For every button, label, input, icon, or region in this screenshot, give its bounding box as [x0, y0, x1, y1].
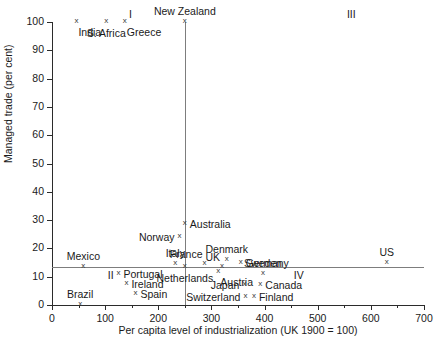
- cross-marker-icon: x: [257, 279, 264, 288]
- data-point-label: France: [170, 248, 203, 260]
- y-tick-label: 100: [26, 15, 44, 28]
- data-point-label: Denmark: [206, 243, 249, 255]
- cross-marker-icon: x: [223, 254, 230, 263]
- cross-marker-icon: x: [242, 291, 249, 300]
- data-point-label: Brazil: [67, 288, 93, 300]
- x-tick-minor: [132, 305, 133, 308]
- x-tick-400: 400: [265, 305, 266, 310]
- scatter-chart-figure: Managed trade (per cent) Per capita leve…: [0, 0, 438, 356]
- x-tick-label: 100: [96, 312, 114, 325]
- quadrant-label-IV: IV: [294, 269, 304, 281]
- y-tick-label: 80: [32, 72, 44, 85]
- cross-marker-icon: x: [215, 266, 222, 275]
- data-point-label: S. Africa: [87, 27, 126, 39]
- x-axis-title: Per capita level of industrialization (U…: [52, 324, 424, 337]
- cross-marker-icon: x: [181, 218, 188, 227]
- data-point-label: Netherlands: [157, 272, 214, 284]
- y-tick-20: 20: [47, 248, 52, 249]
- data-point-label: Sweden: [244, 257, 282, 269]
- y-tick-30: 30: [47, 220, 52, 221]
- cross-marker-icon: x: [250, 291, 257, 300]
- cross-marker-icon: x: [181, 16, 188, 25]
- quadrant-label-I: I: [129, 8, 132, 20]
- x-tick-minor: [344, 305, 345, 308]
- data-point-label: Japan: [211, 279, 240, 291]
- y-tick-label: 20: [32, 241, 44, 254]
- data-point-label: Australia: [190, 218, 231, 230]
- x-tick-label: 400: [256, 312, 274, 325]
- y-tick-label: 70: [32, 100, 44, 113]
- y-tick-50: 50: [47, 164, 52, 165]
- data-point-label: Switzerland: [186, 291, 240, 303]
- plot-area: 0102030405060708090100 01002003004005006…: [52, 22, 424, 305]
- y-tick-label: 0: [38, 298, 44, 311]
- y-tick-40: 40: [47, 192, 52, 193]
- x-tick-label: 500: [309, 312, 327, 325]
- cross-marker-icon: x: [115, 268, 122, 277]
- x-tick-label: 0: [49, 312, 55, 325]
- y-tick-70: 70: [47, 107, 52, 108]
- y-tick-90: 90: [47, 50, 52, 51]
- y-tick-label: 30: [32, 213, 44, 226]
- x-tick-500: 500: [318, 305, 319, 310]
- x-tick-100: 100: [105, 305, 106, 310]
- y-tick-60: 60: [47, 135, 52, 136]
- data-point-label: Norway: [139, 231, 175, 243]
- data-point-label: Greece: [127, 26, 161, 38]
- data-point-label: New Zealand: [154, 5, 216, 17]
- x-tick-600: 600: [371, 305, 372, 310]
- y-tick-label: 40: [32, 185, 44, 198]
- y-tick-label: 50: [32, 157, 44, 170]
- y-axis-title: Managed trade (per cent): [2, 149, 14, 163]
- cross-marker-icon: x: [73, 16, 80, 25]
- x-tick-minor: [397, 305, 398, 308]
- cross-marker-icon: x: [181, 261, 188, 270]
- x-tick-minor: [238, 305, 239, 308]
- quadrant-label-II: II: [108, 269, 114, 281]
- cross-marker-icon: x: [77, 299, 84, 308]
- x-tick-minor: [291, 305, 292, 308]
- x-tick-label: 600: [362, 312, 380, 325]
- x-tick-200: 200: [158, 305, 159, 310]
- cross-marker-icon: x: [241, 279, 248, 288]
- x-tick-300: 300: [211, 305, 212, 310]
- y-tick-label: 10: [32, 270, 44, 283]
- cross-marker-icon: x: [383, 257, 390, 266]
- y-tick-label: 90: [32, 43, 44, 56]
- x-tick-label: 700: [415, 312, 433, 325]
- y-axis-line: [52, 22, 53, 305]
- data-point-label: Mexico: [67, 250, 100, 262]
- horizontal-divider: [52, 267, 424, 268]
- cross-marker-icon: x: [132, 288, 139, 297]
- y-tick-label: 60: [32, 128, 44, 141]
- y-tick-80: 80: [47, 79, 52, 80]
- cross-marker-icon: x: [176, 231, 183, 240]
- cross-marker-icon: x: [121, 16, 128, 25]
- cross-marker-icon: x: [123, 278, 130, 287]
- x-tick-label: 300: [203, 312, 221, 325]
- cross-marker-icon: x: [259, 268, 266, 277]
- data-point-label: Finland: [259, 291, 293, 303]
- data-point-label: Spain: [140, 288, 167, 300]
- y-tick-100: 100: [47, 22, 52, 23]
- x-tick-label: 200: [150, 312, 168, 325]
- quadrant-label-III: III: [347, 8, 356, 20]
- x-tick-0: 0: [52, 305, 53, 310]
- x-tick-minor: [185, 305, 186, 308]
- cross-marker-icon: x: [103, 16, 110, 25]
- x-tick-700: 700: [424, 305, 425, 310]
- data-point-label: US: [380, 246, 395, 258]
- y-tick-10: 10: [47, 277, 52, 278]
- cross-marker-icon: x: [80, 261, 87, 270]
